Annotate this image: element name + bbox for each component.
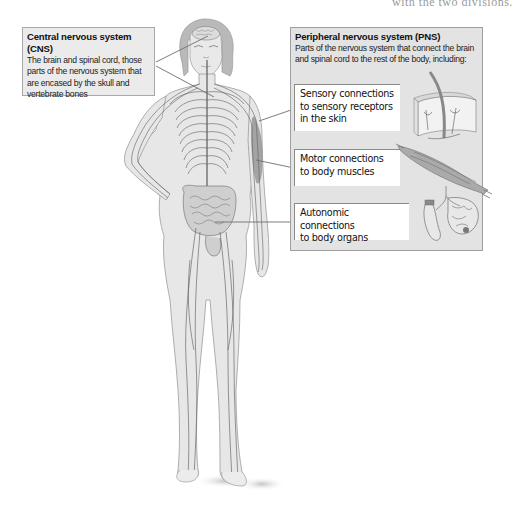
pns-item-label: Sensory connections (300, 88, 395, 101)
pns-item-label: in the skin (300, 113, 395, 126)
cns-description-line: are encased by the skull and (27, 78, 150, 89)
cns-description-line: vertebrate bones (27, 89, 150, 100)
pns-item-sensory: Sensory connections to sensory receptors… (294, 84, 400, 131)
pns-item-motor: Motor connections to body muscles (294, 149, 400, 186)
pns-description-line: Parts of the nervous system that connect… (295, 43, 478, 54)
pns-description-line: and spinal cord to the rest of the body,… (295, 54, 478, 65)
cns-description-line: parts of the nervous system that (27, 66, 150, 77)
pns-item-label: to sensory receptors (300, 101, 395, 114)
pns-item-label: to body organs (300, 232, 404, 245)
pns-callout-box: Peripheral nervous system (PNS) Parts of… (290, 27, 483, 251)
cns-description-line: The brain and spinal cord, those (27, 55, 150, 66)
pns-title: Peripheral nervous system (PNS) (295, 31, 478, 43)
pns-item-label: Autonomic connections (300, 207, 404, 232)
pns-item-autonomic: Autonomic connections to body organs (294, 203, 409, 240)
pns-item-label: Motor connections (300, 153, 395, 166)
cns-callout-box: Central nervous system (CNS) The brain a… (22, 27, 155, 96)
pns-item-label: to body muscles (300, 166, 395, 179)
cns-title: Central nervous system (CNS) (27, 31, 150, 55)
